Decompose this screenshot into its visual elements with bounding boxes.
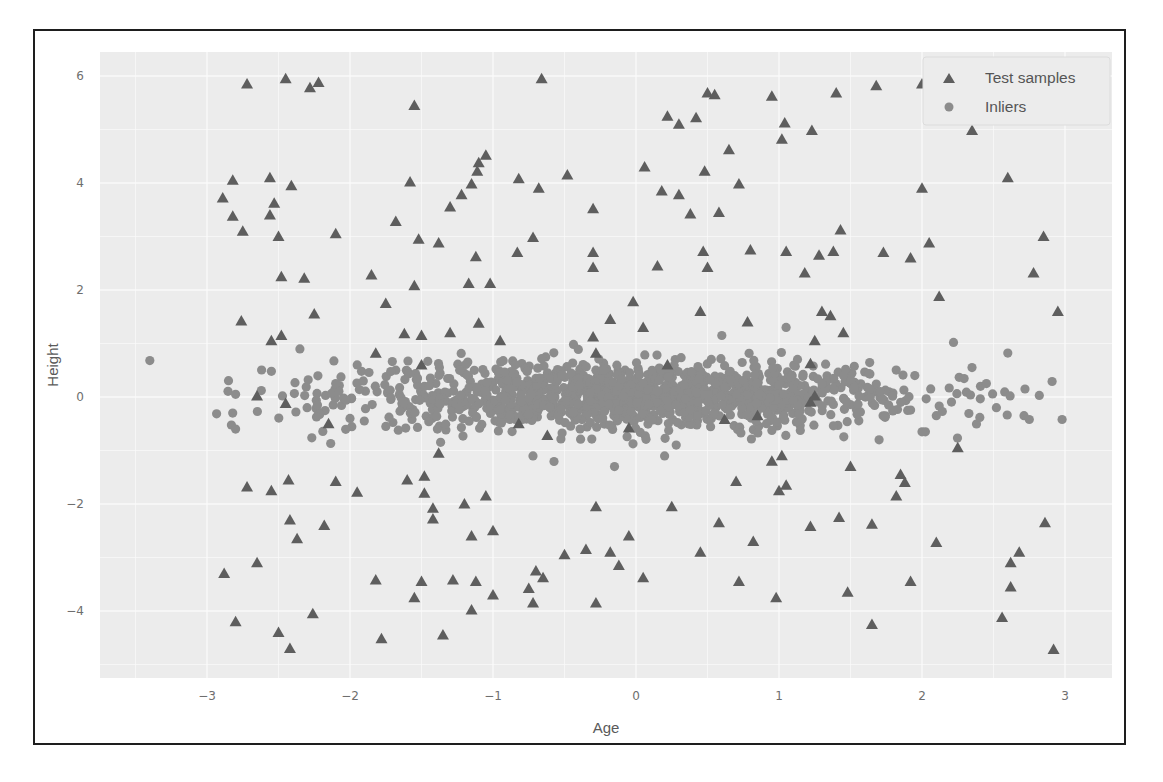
inlier-point (1058, 415, 1067, 424)
inlier-point (964, 409, 973, 418)
inlier-point (904, 392, 913, 401)
inlier-point (953, 434, 962, 443)
inlier-point (1020, 384, 1029, 393)
inlier-point (443, 374, 452, 383)
inlier-point (212, 409, 221, 418)
inlier-point (386, 367, 395, 376)
inlier-point (496, 405, 505, 414)
inlier-point (456, 391, 465, 400)
inlier-point (399, 397, 408, 406)
inlier-point (329, 356, 338, 365)
inlier-point (766, 393, 775, 402)
inlier-point (352, 379, 361, 388)
inlier-point (470, 366, 479, 375)
inlier-point (500, 367, 509, 376)
inlier-point (457, 423, 466, 432)
y-axis-ticks: −4−20246 (66, 69, 84, 618)
inlier-point (434, 371, 443, 380)
inlier-point (736, 428, 745, 437)
inlier-point (788, 384, 797, 393)
inlier-point (632, 398, 641, 407)
inlier-point (788, 396, 797, 405)
inlier-point (864, 369, 873, 378)
inlier-point (638, 379, 647, 388)
inlier-point (794, 410, 803, 419)
inlier-point (679, 380, 688, 389)
inlier-point (755, 390, 764, 399)
inlier-point (945, 383, 954, 392)
inlier-point (228, 409, 237, 418)
inlier-point (625, 368, 634, 377)
x-tick-label: 3 (1061, 689, 1069, 703)
inlier-point (290, 378, 299, 387)
inlier-point (1003, 410, 1012, 419)
inlier-point (677, 353, 686, 362)
x-tick-label: 0 (632, 689, 640, 703)
inlier-point (576, 435, 585, 444)
inlier-point (464, 383, 473, 392)
inlier-point (720, 383, 729, 392)
inlier-point (703, 359, 712, 368)
y-tick-label: 6 (76, 69, 84, 83)
inlier-point (866, 393, 875, 402)
inlier-point (604, 399, 613, 408)
inlier-point (291, 407, 300, 416)
inlier-point (818, 380, 827, 389)
inlier-point (353, 360, 362, 369)
inlier-point (635, 370, 644, 379)
inlier-point (341, 425, 350, 434)
inlier-point (988, 389, 997, 398)
inlier-point (400, 375, 409, 384)
inlier-point (695, 374, 704, 383)
inlier-point (360, 416, 369, 425)
inlier-point (561, 418, 570, 427)
inlier-point (767, 426, 776, 435)
inlier-point (768, 363, 777, 372)
inlier-point (497, 418, 506, 427)
inlier-point (841, 365, 850, 374)
inlier-point (582, 362, 591, 371)
inlier-point (738, 358, 747, 367)
inlier-point (888, 392, 897, 401)
inlier-point (548, 392, 557, 401)
inlier-point (424, 417, 433, 426)
inlier-point (898, 371, 907, 380)
inlier-point (750, 370, 759, 379)
inlier-point (826, 410, 835, 419)
inlier-point (842, 397, 851, 406)
inlier-point (777, 348, 786, 357)
inlier-point (326, 439, 335, 448)
inlier-point (718, 400, 727, 409)
inlier-point (413, 373, 422, 382)
inlier-point (231, 425, 240, 434)
inlier-point (274, 414, 283, 423)
x-axis-label: Age (593, 719, 620, 736)
inlier-point (752, 399, 761, 408)
inlier-point (910, 371, 919, 380)
inlier-point (371, 382, 380, 391)
legend-label-test-samples: Test samples (985, 69, 1076, 86)
inlier-point (628, 439, 637, 448)
inlier-point (716, 391, 725, 400)
inlier-point (381, 422, 390, 431)
inlier-point (329, 400, 338, 409)
inlier-point (467, 394, 476, 403)
inlier-point (605, 421, 614, 430)
inlier-point (537, 354, 546, 363)
inlier-point (505, 410, 514, 419)
x-tick-label: −3 (198, 689, 216, 703)
inlier-point (742, 410, 751, 419)
inlier-point (982, 379, 991, 388)
inlier-point (738, 376, 747, 385)
inlier-point (573, 400, 582, 409)
inlier-point (889, 406, 898, 415)
inlier-point (672, 441, 681, 450)
inlier-point (681, 394, 690, 403)
inlier-point (527, 389, 536, 398)
inlier-point (850, 362, 859, 371)
inlier-point (599, 366, 608, 375)
inlier-point (807, 408, 816, 417)
inlier-point (829, 421, 838, 430)
inlier-point (313, 400, 322, 409)
inlier-point (1025, 415, 1034, 424)
